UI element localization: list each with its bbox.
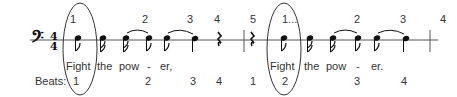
beat-count: 4 — [397, 75, 411, 87]
beat-count: 2 — [278, 75, 292, 87]
eighth-note — [145, 34, 153, 51]
svg-text:𝄢: 𝄢 — [31, 27, 44, 51]
lyric-syllable: Fight — [66, 60, 90, 72]
top-count: 3 — [183, 13, 197, 25]
top-count: 1 — [66, 13, 80, 25]
tie — [127, 30, 148, 33]
beats-label: Beats: — [35, 75, 66, 87]
quarter-note — [191, 35, 199, 52]
lyric-syllable: er, — [160, 60, 172, 72]
tie — [378, 30, 404, 34]
tie — [168, 30, 193, 34]
svg-text:4: 4 — [50, 40, 58, 53]
lyric-syllable: pow — [326, 60, 346, 72]
quarter-rest-icon — [251, 32, 254, 46]
quarter-rest-icon — [218, 32, 221, 46]
sixteenth-note — [329, 34, 337, 52]
sixteenth-note — [99, 34, 107, 52]
time-signature: 4 4 — [50, 30, 58, 53]
top-count: 3 — [396, 13, 410, 25]
top-count: 5 — [246, 13, 260, 25]
top-count: 4 — [210, 13, 224, 25]
eighth-note — [373, 34, 381, 51]
top-count: 1... — [282, 13, 297, 25]
beat-count: 3 — [350, 75, 364, 87]
sixteenth-note — [122, 34, 130, 52]
sixteenth-note — [306, 34, 314, 52]
lyric-syllable: - — [356, 60, 360, 72]
eighth-note — [74, 34, 82, 51]
beat-count: 3 — [186, 75, 200, 87]
lyric-syllable: Fight — [270, 60, 294, 72]
lyric-syllable: er. — [371, 60, 383, 72]
top-count: 4 — [436, 13, 450, 25]
bass-clef-icon: 𝄢 — [31, 27, 44, 51]
lyric-syllable: - — [147, 60, 151, 72]
top-count: 2 — [350, 13, 364, 25]
tie — [334, 30, 357, 33]
top-count: 2 — [138, 13, 152, 25]
beat-count: 2 — [141, 75, 155, 87]
beat-count: 1 — [69, 75, 83, 87]
eighth-note — [280, 34, 288, 51]
lyric-syllable: the — [97, 60, 112, 72]
lyric-syllable: pow — [119, 60, 139, 72]
eighth-note — [163, 34, 171, 51]
beat-count: 1 — [246, 75, 260, 87]
quarter-note — [402, 35, 410, 52]
lyric-syllable: the — [304, 60, 319, 72]
eighth-note — [354, 34, 362, 51]
beat-count: 4 — [212, 75, 226, 87]
